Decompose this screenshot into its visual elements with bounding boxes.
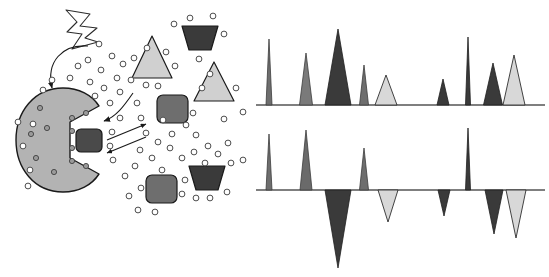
peak-t3: [325, 29, 351, 105]
spectra-panel: [250, 0, 549, 277]
mechanism-panel: [0, 0, 250, 277]
peak-b8: [485, 190, 503, 234]
peak-b3: [325, 190, 351, 268]
spectrum-trace-top: [256, 29, 545, 105]
peak-t1: [266, 39, 272, 105]
peak-t9: [503, 55, 525, 105]
free-ligand-triangle-light-2: [194, 62, 234, 101]
peak-t2: [300, 53, 313, 105]
bound-ligand-square: [76, 129, 102, 152]
spectrum-trace-bottom: [256, 128, 545, 268]
peak-t7: [466, 37, 471, 105]
free-ligand-trapezoid-dark-1: [182, 26, 218, 50]
free-ligand-trapezoid-dark-2: [189, 166, 225, 190]
peak-t8: [484, 63, 503, 105]
peak-b2: [300, 130, 312, 190]
peak-t5: [375, 75, 397, 105]
peak-b4: [360, 148, 369, 190]
spectra-svg: [250, 0, 549, 277]
free-ligand-triangle-light-1: [132, 36, 172, 78]
mechanism-svg: [0, 0, 250, 277]
peak-b7: [466, 128, 471, 190]
peak-b6: [438, 190, 450, 216]
peak-b1: [266, 134, 272, 190]
peak-b5: [378, 190, 398, 222]
peak-t6: [437, 79, 449, 105]
peak-t4: [360, 65, 369, 105]
lightning-bolt-icon: [66, 10, 98, 49]
free-ligand-square-mid-2: [146, 175, 177, 203]
arrow-uptake: [51, 46, 88, 88]
peak-b9: [506, 190, 526, 238]
figure-root: Enzyme-substrate binding equilibrium wit…: [0, 0, 549, 277]
